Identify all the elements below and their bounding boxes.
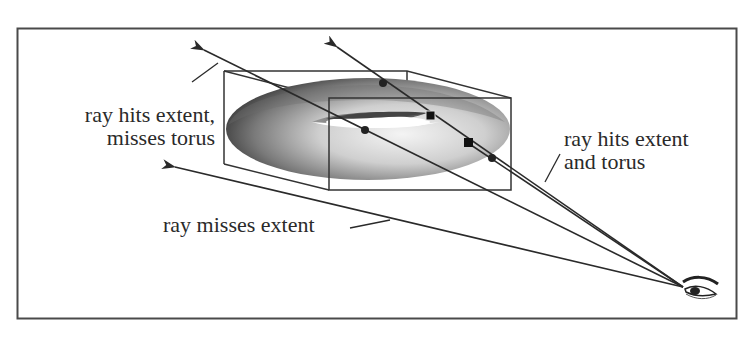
extent-entry-dot	[379, 79, 387, 87]
eye-icon	[683, 277, 718, 298]
label-line: ray hits extent	[564, 127, 689, 150]
label-line: ray hits extent,	[85, 103, 215, 126]
torus-hit-marker	[464, 138, 473, 147]
label-ray-hits-extent-and-torus: ray hits extent and torus	[564, 127, 689, 173]
label-line: misses torus	[85, 126, 215, 149]
extent-entry-dot	[361, 126, 369, 134]
label-ray-hits-extent-misses-torus: ray hits extent, misses torus	[85, 103, 215, 149]
label-line: and torus	[564, 150, 689, 173]
label-ray-misses-extent: ray misses extent	[163, 213, 315, 236]
torus-hit-marker	[426, 111, 435, 120]
extent-entry-dot	[488, 154, 496, 162]
